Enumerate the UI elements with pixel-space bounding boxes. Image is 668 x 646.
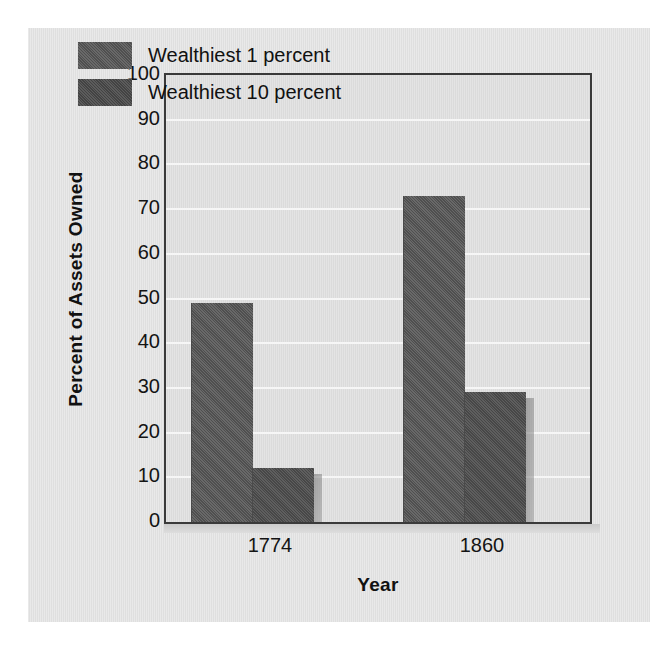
legend-item-2: Wealthiest 10 percent bbox=[78, 79, 341, 106]
bar-1774-series2 bbox=[252, 468, 314, 522]
y-tick-label: 60 bbox=[104, 242, 160, 262]
bar-1774-series1 bbox=[191, 303, 253, 522]
legend-swatch-icon bbox=[78, 42, 132, 69]
x-axis-tick-labels: 17741860 bbox=[164, 534, 592, 564]
axis-base-shadow bbox=[164, 524, 600, 533]
y-tick-label: 70 bbox=[104, 197, 160, 217]
chart-legend: Wealthiest 1 percentWealthiest 10 percen… bbox=[78, 42, 341, 116]
y-tick-label: 80 bbox=[104, 152, 160, 172]
plot-area bbox=[164, 73, 592, 524]
bar-depth-shadow bbox=[526, 398, 534, 522]
scanned-page-surface: Percent of Assets Owned 1009080706050403… bbox=[28, 28, 650, 622]
y-tick-label: 40 bbox=[104, 331, 160, 351]
x-tick-label-1774: 1774 bbox=[164, 534, 376, 557]
y-tick-label: 20 bbox=[104, 421, 160, 441]
y-tick-label: 50 bbox=[104, 287, 160, 307]
legend-item-1: Wealthiest 1 percent bbox=[78, 42, 341, 69]
bar-1860-series1 bbox=[403, 196, 465, 522]
bar-chart-figure: Percent of Assets Owned 1009080706050403… bbox=[28, 28, 650, 622]
y-tick-label: 0 bbox=[104, 510, 160, 530]
gridline bbox=[166, 119, 590, 121]
x-tick-label-1860: 1860 bbox=[376, 534, 588, 557]
bar-1860-series2 bbox=[464, 392, 526, 522]
gridline bbox=[166, 163, 590, 165]
y-tick-label: 30 bbox=[104, 376, 160, 396]
y-tick-label: 10 bbox=[104, 465, 160, 485]
x-axis-title: Year bbox=[164, 574, 592, 596]
gridline bbox=[166, 298, 590, 300]
y-axis-tick-labels: 1009080706050403020100 bbox=[100, 73, 160, 524]
y-axis-title: Percent of Assets Owned bbox=[65, 159, 87, 419]
plot-inner bbox=[166, 75, 590, 522]
legend-swatch-icon bbox=[78, 79, 132, 106]
chart-page: Percent of Assets Owned 1009080706050403… bbox=[0, 0, 668, 646]
bar-depth-shadow bbox=[314, 474, 322, 522]
gridline bbox=[166, 208, 590, 210]
gridline bbox=[166, 253, 590, 255]
legend-label: Wealthiest 1 percent bbox=[148, 44, 330, 67]
legend-label: Wealthiest 10 percent bbox=[148, 81, 341, 104]
